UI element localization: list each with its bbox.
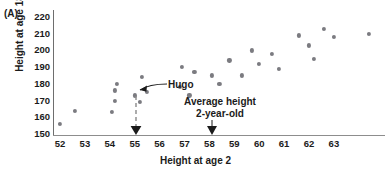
scatter-plot-figure: (A) Height at age 18 Height at age 2 150… <box>0 0 391 178</box>
average-height-arrow <box>0 0 391 178</box>
